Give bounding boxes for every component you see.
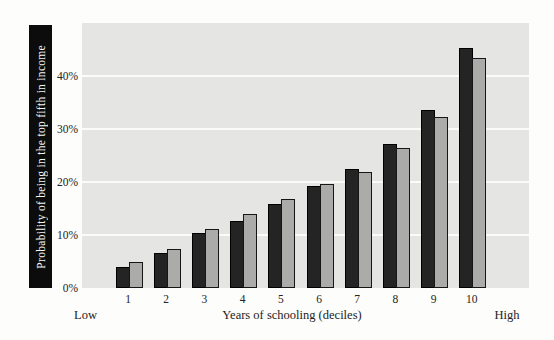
x-tick-label-3: 3 (189, 292, 219, 306)
bar-light-decile-8 (396, 148, 410, 288)
bar-light-decile-10 (472, 58, 486, 288)
bar-dark-decile-7 (345, 169, 359, 288)
bar-dark-decile-2 (154, 253, 168, 288)
y-axis-title-bar: Probability of being in the top fifth in… (29, 25, 52, 288)
bar-light-decile-2 (167, 249, 181, 288)
bar-light-decile-5 (281, 199, 295, 288)
bar-dark-decile-10 (459, 48, 473, 288)
x-axis-low-label: Low (74, 308, 134, 323)
bar-light-decile-1 (129, 262, 143, 288)
bar-dark-decile-6 (307, 186, 321, 288)
y-tick-label-20pct: 20% (38, 175, 78, 189)
x-tick-label-1: 1 (113, 292, 143, 306)
bar-light-decile-4 (243, 214, 257, 288)
x-tick-label-10: 10 (457, 292, 487, 306)
y-tick-label-10pct: 10% (38, 228, 78, 242)
x-tick-label-6: 6 (304, 292, 334, 306)
y-tick-label-0pct: 0% (38, 281, 78, 295)
bar-dark-decile-1 (116, 267, 130, 288)
x-tick-label-4: 4 (228, 292, 258, 306)
bar-chart-figure: Probability of being in the top fifth in… (0, 0, 554, 340)
bar-light-decile-6 (320, 184, 334, 288)
bar-light-decile-9 (434, 117, 448, 288)
bar-dark-decile-8 (383, 144, 397, 288)
bar-light-decile-3 (205, 229, 219, 288)
y-tick-label-40pct: 40% (38, 69, 78, 83)
bar-dark-decile-4 (230, 221, 244, 288)
x-axis-high-label: High (477, 308, 537, 323)
plot-area (82, 23, 529, 288)
x-tick-label-5: 5 (266, 292, 296, 306)
y-tick-label-30pct: 30% (38, 122, 78, 136)
x-tick-label-9: 9 (419, 292, 449, 306)
x-tick-label-8: 8 (380, 292, 410, 306)
x-axis-title: Years of schooling (deciles) (142, 308, 442, 323)
bar-dark-decile-9 (421, 110, 435, 288)
bar-dark-decile-3 (192, 233, 206, 288)
bar-dark-decile-5 (268, 204, 282, 288)
bar-light-decile-7 (358, 172, 372, 288)
x-tick-label-2: 2 (151, 292, 181, 306)
x-tick-label-7: 7 (342, 292, 372, 306)
